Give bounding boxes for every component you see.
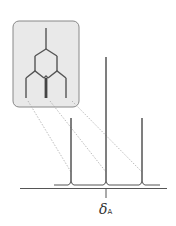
delta-subscript: A: [107, 208, 112, 216]
delta-a-label: δA: [99, 201, 112, 217]
nmr-splitting-diagram: [0, 0, 176, 226]
splitting-tree-inset: [13, 21, 79, 107]
chemical-shift-axis: [20, 188, 167, 198]
dotted-connectors: [28, 101, 142, 172]
